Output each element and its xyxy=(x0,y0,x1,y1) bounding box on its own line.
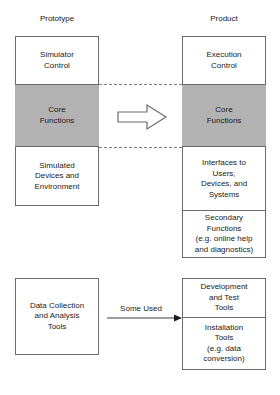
data-collection-tools-label: Data Collection and Analysis Tools xyxy=(16,279,98,354)
segment-line: Development xyxy=(200,282,247,293)
segment-line: and Analysis xyxy=(30,311,84,322)
some-used-arrow-label: Some Used xyxy=(108,304,174,314)
segment-line: Secondary xyxy=(195,213,253,224)
column-header-product: Product xyxy=(182,14,266,24)
core-alignment-line-bottom xyxy=(99,147,182,148)
segment-line: Data Collection xyxy=(30,301,84,312)
core-transfer-arrow-icon xyxy=(116,102,168,132)
segment-line: Devices, and xyxy=(201,179,247,190)
core-alignment-line-top xyxy=(99,84,182,85)
segment-line: and diagnostics) xyxy=(195,245,253,256)
segment-line: Core xyxy=(40,105,75,116)
prototype-segment-simulator-control: Simulator Control xyxy=(16,37,98,84)
product-segment-execution-control: Execution Control xyxy=(183,37,265,84)
segment-line: and Test xyxy=(200,293,247,304)
segment-line: Control xyxy=(40,61,74,72)
segment-line: Simulator xyxy=(40,50,74,61)
segment-line: (e.g. online help xyxy=(195,234,253,245)
some-used-arrow-icon xyxy=(106,314,184,326)
segment-line: Installation xyxy=(203,323,244,334)
segment-line: Devices and xyxy=(35,171,80,182)
segment-line: Execution xyxy=(206,50,241,61)
segment-line: Tools xyxy=(203,333,244,344)
segment-line: Tools xyxy=(30,322,84,333)
segment-line: Simulated xyxy=(35,161,80,172)
segment-line: Functions xyxy=(207,116,242,127)
segment-line: Systems xyxy=(201,190,247,201)
segment-line: Interfaces to xyxy=(201,158,247,169)
prototype-product-diagram: Prototype Product Simulator Control Core… xyxy=(0,0,280,395)
segment-line: Control xyxy=(206,61,241,72)
segment-line: Functions xyxy=(195,224,253,235)
product-segment-core-functions: Core Functions xyxy=(183,85,265,146)
product-tools-segment-installation: Installation Tools (e.g. data conversion… xyxy=(183,318,265,369)
segment-line: Users, xyxy=(201,169,247,180)
product-segment-interfaces: Interfaces to Users, Devices, and System… xyxy=(183,148,265,210)
column-header-prototype: Prototype xyxy=(15,14,99,24)
segment-line: conversion) xyxy=(203,354,244,365)
segment-line: Core xyxy=(207,105,242,116)
segment-line: Environment xyxy=(35,182,80,193)
segment-line: (e.g. data xyxy=(203,344,244,355)
product-segment-secondary-functions: Secondary Functions (e.g. online help an… xyxy=(183,211,265,257)
segment-line: Tools xyxy=(200,303,247,314)
prototype-segment-simulated-devices: Simulated Devices and Environment xyxy=(16,148,98,205)
segment-line: Functions xyxy=(40,116,75,127)
prototype-segment-core-functions: Core Functions xyxy=(16,85,98,146)
product-tools-segment-development-test: Development and Test Tools xyxy=(183,279,265,317)
